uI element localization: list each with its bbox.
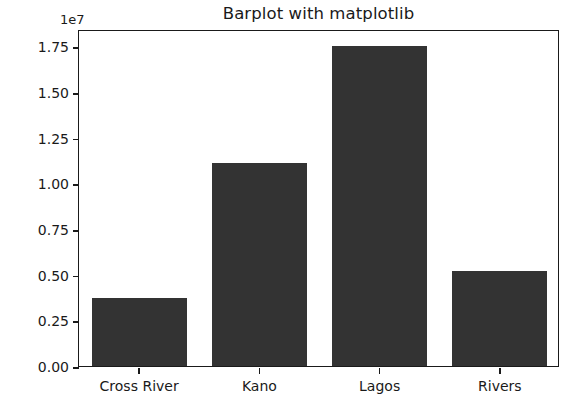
y-tick-mark — [73, 184, 79, 186]
y-axis-offset-label: 1e7 — [60, 12, 85, 27]
y-tick-mark — [73, 367, 79, 369]
y-tick-label: 1.25 — [38, 131, 69, 147]
y-tick-mark — [73, 139, 79, 141]
x-tick-mark — [259, 368, 261, 374]
x-tick-label: Lagos — [359, 378, 400, 394]
matplotlib-figure: Barplot with matplotlib 1e7 0.000.250.50… — [0, 0, 581, 410]
bar — [332, 46, 427, 366]
y-tick-mark — [73, 276, 79, 278]
y-tick-label: 0.25 — [38, 313, 69, 329]
y-tick-label: 0.50 — [38, 268, 69, 284]
y-tick-mark — [73, 230, 79, 232]
x-tick-label: Cross River — [100, 378, 179, 394]
y-tick-mark — [73, 47, 79, 49]
chart-title: Barplot with matplotlib — [78, 4, 559, 23]
y-tick-label: 1.75 — [38, 39, 69, 55]
x-tick-mark — [379, 368, 381, 374]
bar — [212, 163, 307, 366]
y-tick-mark — [73, 93, 79, 95]
plot-axes: 0.000.250.500.751.001.251.501.75 Cross R… — [78, 30, 559, 367]
y-tick-label: 0.00 — [38, 359, 69, 375]
y-tick-label: 1.00 — [38, 176, 69, 192]
x-tick-label: Kano — [242, 378, 277, 394]
y-tick-label: 0.75 — [38, 222, 69, 238]
x-tick-label: Rivers — [478, 378, 522, 394]
x-tick-mark — [138, 368, 140, 374]
plot-area — [79, 31, 558, 366]
y-tick-mark — [73, 321, 79, 323]
bar — [452, 271, 547, 366]
bar — [92, 298, 187, 366]
x-tick-mark — [499, 368, 501, 374]
y-tick-label: 1.50 — [38, 85, 69, 101]
